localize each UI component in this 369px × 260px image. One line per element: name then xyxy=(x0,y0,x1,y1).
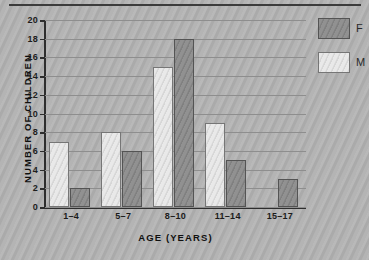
bar-f-1[interactable] xyxy=(70,188,90,207)
y-axis-tick-mark xyxy=(40,76,45,78)
y-axis-tick-label: 20 xyxy=(16,15,38,25)
y-axis-tick-label: 4 xyxy=(16,165,38,175)
bar-group xyxy=(205,20,246,207)
bar-m-3[interactable] xyxy=(153,67,173,207)
legend-swatch-f-icon xyxy=(318,18,350,39)
bar-f-2[interactable] xyxy=(122,151,142,207)
bar-group xyxy=(153,20,194,207)
legend-label-f: F xyxy=(356,22,363,34)
legend-item-m: M xyxy=(318,52,366,74)
plot-area xyxy=(45,20,306,207)
y-axis-tick-label: 12 xyxy=(16,90,38,100)
bar-group xyxy=(101,20,142,207)
bar-group xyxy=(49,20,90,207)
y-axis-tick-label: 18 xyxy=(16,34,38,44)
x-axis-title: AGE (YEARS) xyxy=(45,232,306,243)
legend-item-f: F xyxy=(318,18,366,40)
bar-m-1[interactable] xyxy=(49,142,69,207)
gridline xyxy=(45,207,306,208)
bar-group xyxy=(257,20,298,207)
y-axis-tick-labels: 02468101214161820 xyxy=(12,20,38,207)
legend-swatch-m-icon xyxy=(318,52,350,73)
y-axis-tick-mark xyxy=(40,151,45,153)
chart-legend: F M xyxy=(318,18,366,86)
y-axis-tick-mark xyxy=(40,95,45,97)
bar-f-4[interactable] xyxy=(226,160,246,207)
x-axis-tick-label: 11–14 xyxy=(202,211,254,221)
y-axis-tick-label: 6 xyxy=(16,146,38,156)
bar-m-4[interactable] xyxy=(205,123,225,207)
y-axis-tick-mark xyxy=(40,57,45,59)
x-axis-tick-label: 1–4 xyxy=(45,211,97,221)
y-axis-tick-mark xyxy=(40,39,45,41)
y-axis-tick-label: 2 xyxy=(16,183,38,193)
y-axis-tick-label: 0 xyxy=(16,202,38,212)
y-axis-tick-label: 16 xyxy=(16,52,38,62)
y-axis-tick-mark xyxy=(40,132,45,134)
x-axis-tick-label: 5–7 xyxy=(97,211,149,221)
x-axis-tick-label: 15–17 xyxy=(254,211,306,221)
legend-label-m: M xyxy=(356,56,365,68)
x-axis-tick-label: 8–10 xyxy=(149,211,201,221)
bar-m-2[interactable] xyxy=(101,132,121,207)
y-axis-tick-mark xyxy=(40,188,45,190)
y-axis-tick-mark xyxy=(40,170,45,172)
y-axis-tick-label: 8 xyxy=(16,127,38,137)
y-axis-tick-mark xyxy=(40,114,45,116)
y-axis-tick-label: 14 xyxy=(16,71,38,81)
y-axis-tick-mark xyxy=(40,20,45,22)
y-axis-tick-mark xyxy=(40,207,45,209)
top-horizontal-rule xyxy=(9,4,361,6)
y-axis-tick-label: 10 xyxy=(16,109,38,119)
bar-f-5[interactable] xyxy=(278,179,298,207)
bar-f-3[interactable] xyxy=(174,39,194,207)
